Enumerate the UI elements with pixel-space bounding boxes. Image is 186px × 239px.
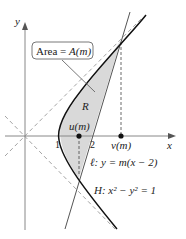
- point-v-label: v(m): [111, 139, 131, 152]
- point-u: [76, 133, 81, 138]
- y-axis-arrow-icon: [22, 22, 28, 30]
- callout-leader: [62, 60, 95, 92]
- tick-1: 1: [55, 139, 60, 150]
- y-axis-label: y: [14, 15, 20, 27]
- tick-2: 2: [90, 139, 95, 150]
- x-axis-label: x: [166, 139, 172, 151]
- diagram-canvas: Area = A(m) y x 1 2 R u(m) v(m) ℓ: y = m…: [0, 0, 186, 239]
- point-v: [118, 133, 123, 138]
- point-u-label: u(m): [69, 120, 90, 133]
- line-equation: ℓ: y = m(x − 2): [90, 156, 158, 169]
- callout-text: Area = A(m): [36, 45, 91, 58]
- region-label: R: [81, 100, 89, 112]
- asymptote-y-equals-neg-x: [5, 116, 115, 229]
- hyperbola-equation: H: x² − y² = 1: [93, 184, 156, 196]
